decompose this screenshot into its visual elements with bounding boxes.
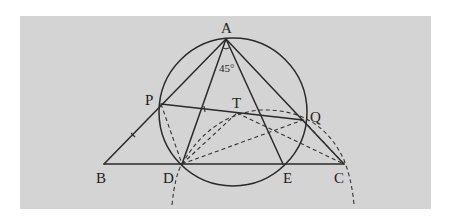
diagram-background <box>20 16 431 209</box>
label-A: A <box>221 20 232 36</box>
label-C: C <box>334 170 344 186</box>
label-D: D <box>163 170 174 186</box>
label-Q: Q <box>310 109 321 125</box>
geometry-diagram: A P Q T B D E C 45° <box>0 0 453 220</box>
angle-label-45: 45° <box>219 62 234 74</box>
label-T: T <box>232 95 241 111</box>
label-B: B <box>96 170 106 186</box>
label-E: E <box>283 170 292 186</box>
label-P: P <box>145 92 153 108</box>
